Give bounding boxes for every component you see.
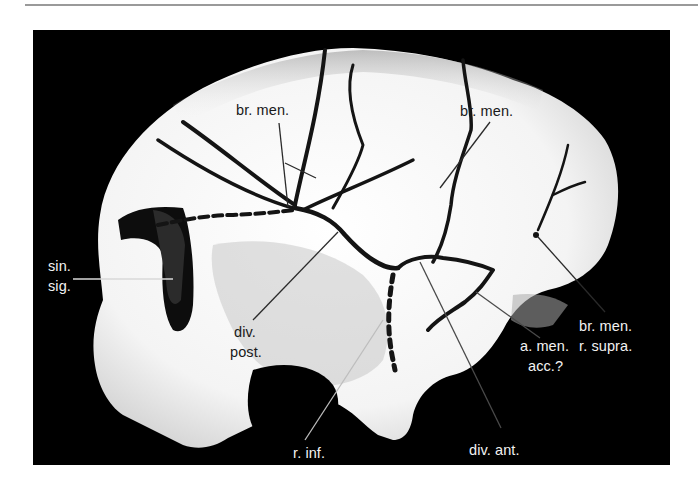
label-a-men-acc: a. men. acc.? [520,336,569,376]
label-br-men-r-supra: br. men. r. supra. [579,316,632,356]
label-div-post: div. post. [230,322,262,362]
endocast-photo [33,30,670,465]
label-div-ant: div. ant. [469,440,520,460]
label-r-inf: r. inf. [293,443,325,463]
label-br-men-left: br. men. [236,100,289,120]
label-sin-sig: sin. sig. [48,256,71,296]
label-br-men-right: br. men. [460,101,513,121]
endocast-figure: br. men. br. men. sin. sig. div. post. r… [33,30,670,465]
top-rule-divider [25,4,698,6]
